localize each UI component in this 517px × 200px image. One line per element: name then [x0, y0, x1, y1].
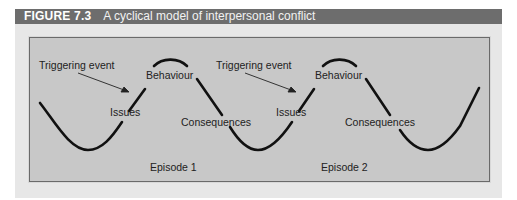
label-issues-2: Issues: [276, 106, 306, 118]
wave-segment: [323, 60, 356, 66]
label-episode-1: Episode 1: [150, 161, 197, 173]
wave-segment: [154, 60, 187, 66]
cycle-wave-diagram: [0, 0, 517, 200]
trigger-arrow-1: [78, 73, 124, 90]
label-behaviour-2: Behaviour: [315, 69, 362, 81]
label-behaviour-1: Behaviour: [146, 69, 193, 81]
arrowhead-icon: [121, 87, 129, 92]
wave-segment: [197, 79, 222, 115]
label-consequences-2: Consequences: [345, 116, 415, 128]
label-issues-1: Issues: [110, 106, 140, 118]
trigger-arrow-2: [245, 73, 291, 90]
label-episode-2: Episode 2: [321, 161, 368, 173]
label-triggering-event-2: Triggering event: [216, 59, 291, 71]
label-consequences-1: Consequences: [181, 116, 251, 128]
wave-segment: [366, 79, 390, 115]
label-triggering-event-1: Triggering event: [39, 59, 114, 71]
arrowhead-icon: [288, 87, 296, 92]
